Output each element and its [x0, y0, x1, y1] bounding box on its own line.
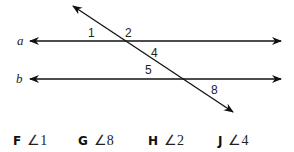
line-b-label: b: [16, 71, 23, 86]
answer-choices: F ∠1 G ∠8 H ∠2 J ∠4: [0, 132, 294, 150]
choice-letter: H: [148, 134, 158, 148]
angle-label-8: 8: [211, 83, 218, 97]
choice-h[interactable]: H ∠2: [148, 132, 184, 149]
choice-f[interactable]: F ∠1: [13, 132, 47, 149]
choice-g[interactable]: G ∠8: [78, 132, 114, 149]
choice-answer: ∠1: [27, 132, 47, 149]
angle-label-4: 4: [151, 46, 158, 60]
choice-letter: F: [13, 134, 21, 148]
angle-label-1: 1: [88, 26, 95, 40]
choice-answer: ∠2: [164, 132, 184, 149]
choice-answer: ∠4: [228, 132, 248, 149]
choice-j[interactable]: J ∠4: [218, 132, 248, 149]
choice-letter: J: [218, 134, 222, 148]
line-a-label: a: [17, 33, 24, 48]
angle-label-5: 5: [145, 63, 152, 77]
parallel-lines-diagram: a b 1 2 4 5 8: [0, 0, 294, 130]
choice-answer: ∠8: [94, 132, 114, 149]
choice-letter: G: [78, 134, 88, 148]
angle-label-2: 2: [125, 26, 132, 40]
